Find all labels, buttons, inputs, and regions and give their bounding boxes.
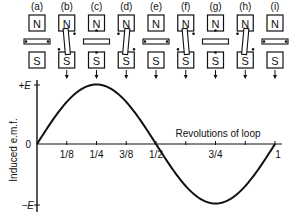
loop-stage-f: (f)NS xyxy=(169,1,203,79)
loop-stage-i: (i)NS xyxy=(262,1,288,79)
coil-loop xyxy=(50,25,84,59)
loop-stage-d: (d)NS xyxy=(109,1,143,79)
loop-stage-g: (g)NS xyxy=(203,1,229,79)
stage-label: (g) xyxy=(209,1,221,12)
chart-axes: +E 0 −E Induced e.m.f. Revolutions of lo… xyxy=(8,80,282,212)
x-tick-label: 1 xyxy=(275,149,281,160)
coil-loop xyxy=(262,39,288,44)
south-pole-label: S xyxy=(212,55,219,67)
y-axis-label: Induced e.m.f. xyxy=(8,118,19,181)
coil-loop xyxy=(24,39,50,44)
y-tick-label-zero: 0 xyxy=(25,139,31,150)
south-pole-label: S xyxy=(63,55,70,67)
coil-loop xyxy=(143,39,169,44)
coil-loop xyxy=(109,25,143,59)
south-pole-label: S xyxy=(93,55,100,67)
south-pole-label: S xyxy=(242,55,249,67)
south-pole-label: S xyxy=(152,55,159,67)
north-pole-label: N xyxy=(271,18,279,30)
loop-stage-c: (c)NS xyxy=(84,1,110,79)
x-tick-label: 3/8 xyxy=(119,149,133,160)
stage-label: (h) xyxy=(239,1,251,12)
x-axis-label: Revolutions of loop xyxy=(175,128,260,139)
stage-label: (f) xyxy=(181,1,190,12)
y-tick-label-plus-e: +E xyxy=(18,80,31,91)
x-tick-label: 1/8 xyxy=(60,149,74,160)
stage-label: (a) xyxy=(31,1,43,12)
stage-label: (i) xyxy=(271,1,280,12)
south-pole-label: S xyxy=(33,55,40,67)
loop-stage-h: (h)NS xyxy=(228,1,262,79)
stage-label: (d) xyxy=(120,1,132,12)
coil-loop xyxy=(84,29,110,54)
loop-stage-diagrams: (a)NS(b)NS(c)NS(d)NS(e)NS(f)NS(g)NS(h)NS… xyxy=(24,1,288,79)
coil-loop xyxy=(203,29,229,54)
x-tick-label: 1/4 xyxy=(90,149,104,160)
north-pole-label: N xyxy=(93,18,101,30)
coil-loop xyxy=(169,25,203,59)
south-pole-label: S xyxy=(182,55,189,67)
loop-stage-a: (a)NS xyxy=(24,1,50,68)
y-tick-label-minus-e: −E xyxy=(21,200,34,211)
x-tick-label: 3/4 xyxy=(209,149,223,160)
stage-label: (c) xyxy=(91,1,103,12)
loop-stage-e: (e)NS xyxy=(143,1,169,79)
stage-label: (b) xyxy=(61,1,73,12)
north-pole-label: N xyxy=(33,18,41,30)
coil-loop xyxy=(228,25,262,59)
loop-stage-b: (b)NS xyxy=(50,1,84,79)
emf-generator-figure: (a)NS(b)NS(c)NS(d)NS(e)NS(f)NS(g)NS(h)NS… xyxy=(0,0,296,222)
north-pole-label: N xyxy=(212,18,220,30)
south-pole-label: S xyxy=(123,55,130,67)
north-pole-label: N xyxy=(152,18,160,30)
stage-label: (e) xyxy=(150,1,162,12)
south-pole-label: S xyxy=(271,55,278,67)
